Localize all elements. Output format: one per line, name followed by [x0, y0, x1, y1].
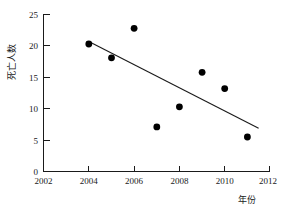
- data-point: [85, 41, 92, 48]
- y-tick-label-25: 25: [29, 10, 39, 20]
- data-point: [153, 124, 160, 131]
- data-point: [199, 69, 206, 76]
- chart-page: 0 5 10 15 20 25 2002 2004 2006 2008 2010…: [0, 0, 287, 213]
- y-tick-label-15: 15: [29, 73, 39, 83]
- scatter-chart: 0 5 10 15 20 25 2002 2004 2006 2008 2010…: [0, 0, 287, 213]
- x-tick-label-2010: 2010: [216, 176, 235, 186]
- y-tick-label-10: 10: [29, 104, 39, 114]
- x-tick-label-2002: 2002: [35, 176, 53, 186]
- x-tick-label-2004: 2004: [80, 176, 99, 186]
- data-point: [221, 85, 228, 92]
- x-tick-label-2012: 2012: [259, 176, 277, 186]
- data-point: [176, 103, 183, 110]
- x-tick-label-2008: 2008: [170, 176, 189, 186]
- data-point: [131, 25, 138, 32]
- data-point: [108, 54, 115, 61]
- y-axis-title: 死亡人数: [6, 44, 17, 80]
- data-point: [244, 134, 251, 141]
- x-tick-label-2006: 2006: [125, 176, 144, 186]
- y-tick-label-20: 20: [29, 41, 39, 51]
- x-axis-title: 年份: [238, 194, 256, 205]
- y-tick-label-5: 5: [34, 136, 39, 146]
